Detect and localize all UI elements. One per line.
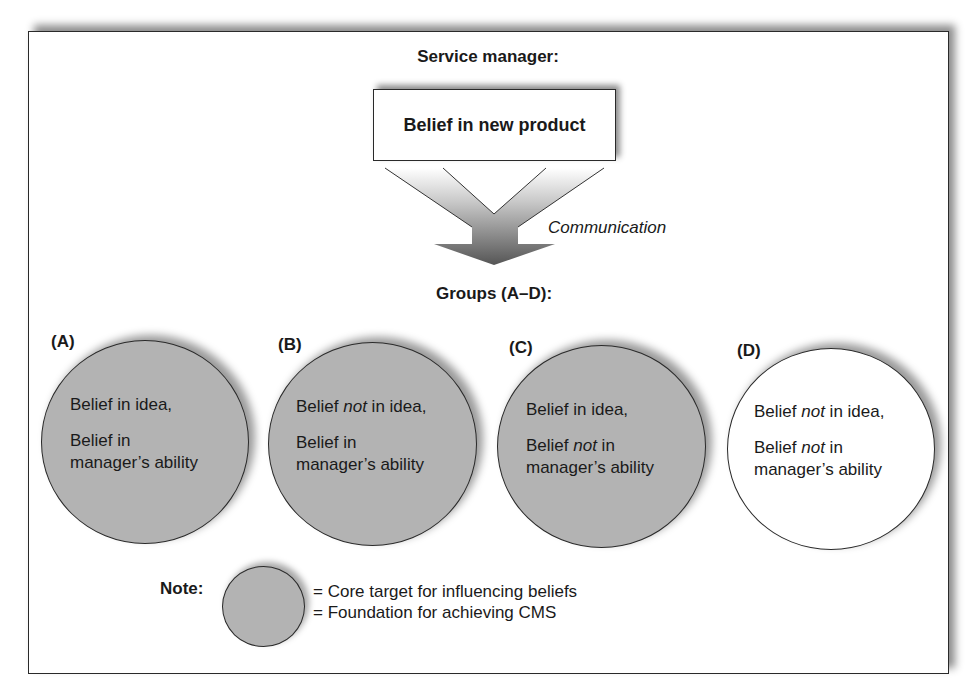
group-c-text: Belief in idea, Belief not in manager’s … bbox=[526, 399, 654, 479]
note-label: Note: bbox=[160, 579, 203, 599]
group-a-text: Belief in idea, Belief in manager’s abil… bbox=[70, 394, 198, 474]
group-d-text: Belief not in idea, Belief not in manage… bbox=[754, 401, 884, 481]
group-d-label: (D) bbox=[737, 341, 761, 361]
group-b-text: Belief not in idea, Belief in manager’s … bbox=[296, 396, 426, 476]
group-c-label: (C) bbox=[509, 338, 533, 358]
note-legend-circle bbox=[222, 566, 305, 647]
communication-funnel-arrow-icon bbox=[370, 160, 620, 270]
service-manager-title: Service manager: bbox=[0, 47, 976, 67]
note-text: = Core target for influencing beliefs = … bbox=[313, 581, 577, 623]
group-b-label: (B) bbox=[278, 335, 302, 355]
note-line-core-target: = Core target for influencing beliefs bbox=[313, 581, 577, 602]
groups-title: Groups (A–D): bbox=[0, 284, 976, 304]
product-belief-label: Belief in new product bbox=[403, 115, 585, 136]
communication-label: Communication bbox=[548, 218, 666, 238]
group-a-label: (A) bbox=[51, 332, 75, 352]
note-line-foundation: = Foundation for achieving CMS bbox=[313, 602, 577, 623]
product-belief-box: Belief in new product bbox=[373, 89, 616, 161]
